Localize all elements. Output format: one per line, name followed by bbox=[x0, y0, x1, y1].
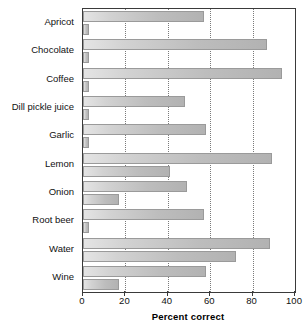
bar bbox=[83, 181, 187, 192]
y-axis-label-chocolate: Chocolate bbox=[31, 45, 74, 55]
bar bbox=[83, 81, 89, 92]
y-axis-label-dill-pickle-juice: Dill pickle juice bbox=[12, 102, 74, 112]
bar bbox=[83, 266, 206, 277]
bar-group bbox=[83, 68, 295, 92]
bar bbox=[83, 279, 119, 290]
bar bbox=[83, 11, 204, 22]
y-axis-label-wine: Wine bbox=[52, 272, 74, 282]
x-tick-label-100: 100 bbox=[286, 295, 302, 307]
bar bbox=[83, 68, 282, 79]
bar bbox=[83, 109, 89, 120]
bar bbox=[83, 194, 119, 205]
y-axis-label-apricot: Apricot bbox=[44, 17, 74, 27]
bar-series-layer bbox=[83, 9, 295, 292]
x-tick-label-80: 80 bbox=[246, 295, 257, 307]
bar bbox=[83, 39, 267, 50]
y-axis-label-root-beer: Root beer bbox=[32, 215, 74, 225]
y-axis-label-coffee: Coffee bbox=[46, 74, 74, 84]
y-axis-label-water: Water bbox=[49, 244, 74, 254]
x-axis-tick-labels: 020406080100 bbox=[0, 295, 306, 309]
x-tick-label-0: 0 bbox=[79, 295, 84, 307]
bar-group bbox=[83, 39, 295, 63]
x-tick-label-40: 40 bbox=[162, 295, 173, 307]
bar bbox=[83, 52, 89, 63]
x-tick-label-60: 60 bbox=[204, 295, 215, 307]
y-axis-label-onion: Onion bbox=[49, 187, 74, 197]
y-axis-category-labels: ApricotChocolateCoffeeDill pickle juiceG… bbox=[0, 8, 78, 291]
bar bbox=[83, 222, 89, 233]
bar bbox=[83, 153, 272, 164]
y-axis-label-garlic: Garlic bbox=[49, 130, 74, 140]
bar-chart: ApricotChocolateCoffeeDill pickle juiceG… bbox=[0, 0, 306, 329]
bar-group bbox=[83, 96, 295, 120]
x-tick-label-20: 20 bbox=[119, 295, 130, 307]
bar-group bbox=[83, 266, 295, 290]
bar bbox=[83, 24, 89, 35]
bar-group bbox=[83, 153, 295, 177]
bar-group bbox=[83, 181, 295, 205]
bar-group bbox=[83, 209, 295, 233]
y-axis-label-lemon: Lemon bbox=[45, 159, 74, 169]
bar bbox=[83, 124, 206, 135]
bar bbox=[83, 137, 89, 148]
bar bbox=[83, 96, 185, 107]
plot-area bbox=[82, 8, 296, 293]
bar bbox=[83, 251, 236, 262]
bar bbox=[83, 166, 170, 177]
bar-group bbox=[83, 124, 295, 148]
bar-group bbox=[83, 238, 295, 262]
bar bbox=[83, 209, 204, 220]
x-axis-title: Percent correct bbox=[82, 311, 294, 322]
bar bbox=[83, 238, 270, 249]
bar-group bbox=[83, 11, 295, 35]
